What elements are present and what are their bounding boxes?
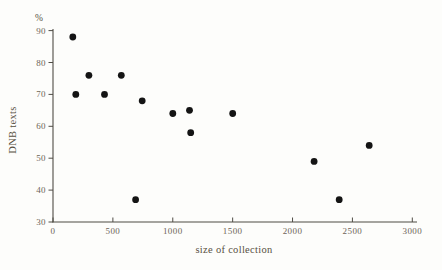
- data-point: [69, 34, 76, 41]
- data-point: [311, 158, 318, 165]
- y-tick-label: 30: [36, 217, 46, 227]
- data-point: [187, 129, 194, 136]
- y-tick-label: 80: [36, 58, 46, 68]
- data-point: [101, 91, 108, 98]
- data-point: [169, 110, 176, 117]
- x-tick-label: 500: [106, 226, 121, 236]
- plot-layer: 05001000150020002500300030405060708090: [36, 26, 422, 236]
- data-point: [229, 110, 236, 117]
- y-tick-label: 40: [36, 185, 46, 195]
- data-point: [366, 142, 373, 149]
- data-point: [186, 107, 193, 114]
- data-point: [139, 97, 146, 104]
- scatter-chart: 05001000150020002500300030405060708090 %…: [0, 0, 442, 270]
- x-tick-label: 3000: [402, 226, 422, 236]
- data-point: [86, 72, 93, 79]
- y-axis-unit-label: %: [35, 13, 43, 23]
- y-axis-title: DNB texts: [7, 106, 18, 153]
- data-point: [72, 91, 79, 98]
- y-tick-label: 90: [36, 26, 46, 36]
- data-point: [336, 196, 343, 203]
- data-point: [118, 72, 125, 79]
- scatter-plot-figure: 05001000150020002500300030405060708090 %…: [0, 0, 442, 270]
- x-tick-label: 2500: [343, 226, 363, 236]
- x-tick-label: 1500: [223, 226, 243, 236]
- x-tick-label: 1000: [163, 226, 183, 236]
- x-tick-label: 0: [51, 226, 56, 236]
- y-tick-label: 60: [36, 121, 46, 131]
- x-tick-label: 2000: [283, 226, 303, 236]
- data-point: [132, 196, 139, 203]
- y-tick-label: 50: [36, 153, 46, 163]
- x-axis-title: size of collection: [195, 244, 273, 255]
- y-tick-label: 70: [36, 89, 46, 99]
